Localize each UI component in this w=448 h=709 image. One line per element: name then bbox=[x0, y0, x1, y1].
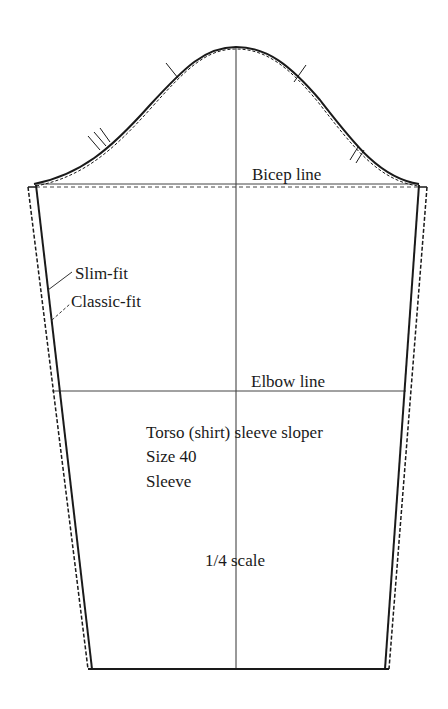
slim-fit-leader bbox=[48, 272, 72, 290]
slim-fit-label: Slim-fit bbox=[75, 264, 128, 283]
notch-marks bbox=[88, 63, 364, 163]
left-seam-classic bbox=[28, 187, 88, 669]
pattern-title: Torso (shirt) sleeve sloper bbox=[146, 423, 323, 442]
scale-label: 1/4 scale bbox=[205, 551, 265, 570]
classic-fit-leader bbox=[52, 304, 70, 320]
right-seam-classic bbox=[389, 187, 427, 669]
pattern-piece: Sleeve bbox=[146, 472, 191, 491]
right-seam-slim bbox=[385, 185, 419, 669]
pattern-size: Size 40 bbox=[146, 447, 197, 466]
classic-fit-label: Classic-fit bbox=[71, 292, 141, 311]
bicep-line-label: Bicep line bbox=[252, 165, 321, 184]
sleeve-cap-classic bbox=[36, 49, 418, 186]
left-seam-slim bbox=[36, 185, 92, 669]
elbow-line-label: Elbow line bbox=[251, 372, 325, 391]
sleeve-sloper-diagram: Bicep line Slim-fit Classic-fit Elbow li… bbox=[0, 0, 448, 709]
